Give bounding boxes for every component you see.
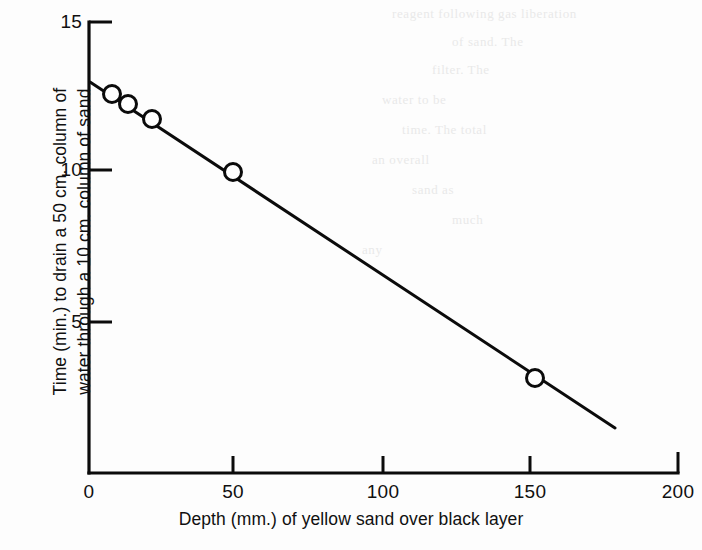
y-tick-label-15: 15 <box>28 11 82 33</box>
y-axis-title-line1: Time (min.) to drain a 50 cm. column of <box>49 32 73 452</box>
x-axis <box>89 452 678 473</box>
chart-svg <box>0 0 702 550</box>
x-tick-label-0: 0 <box>69 481 109 503</box>
x-tick-label-50: 50 <box>211 481 255 503</box>
data-point-marker <box>225 164 242 181</box>
data-point-marker <box>120 96 137 113</box>
data-point-marker <box>104 86 121 103</box>
x-tick-label-150: 150 <box>504 481 556 503</box>
y-axis-title-line2: water through a 10 cm. column of sand <box>73 32 97 452</box>
x-tick-label-100: 100 <box>357 481 409 503</box>
data-point-marker <box>527 370 544 387</box>
x-tick-label-200: 200 <box>652 481 702 503</box>
figure-container: reagent following gas liberation of sand… <box>0 0 702 550</box>
x-axis-title: Depth (mm.) of yellow sand over black la… <box>0 508 702 532</box>
data-point-marker <box>144 111 161 128</box>
y-axis-title: Time (min.) to drain a 50 cm. column of … <box>49 32 96 452</box>
